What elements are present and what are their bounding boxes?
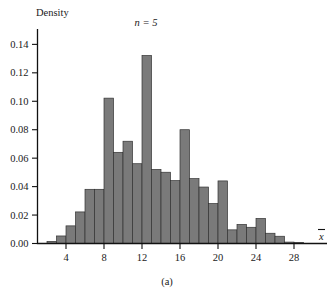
- histogram-bar: [95, 189, 105, 243]
- y-tick-label: 0.00: [10, 238, 28, 249]
- histogram-bar: [256, 218, 266, 243]
- histogram-bar: [161, 172, 171, 243]
- x-axis-ticks: 481216202428: [63, 244, 299, 263]
- x-tick-label: 28: [289, 252, 300, 263]
- histogram-bar: [228, 230, 238, 244]
- histogram-bar: [180, 130, 190, 244]
- x-tick-label: 16: [175, 252, 186, 263]
- histogram-bar: [142, 55, 152, 243]
- histogram-bar: [114, 152, 124, 243]
- y-tick-label: 0.02: [10, 210, 28, 221]
- histogram-bar: [275, 236, 285, 243]
- x-tick-label: 20: [213, 252, 224, 263]
- sample-size-annotation: n = 5: [135, 17, 158, 28]
- x-tick-label: 8: [101, 252, 106, 263]
- y-tick-label: 0.12: [10, 67, 28, 78]
- y-tick-label: 0.10: [10, 96, 28, 107]
- histogram-bar: [76, 212, 86, 244]
- histogram-bar: [85, 189, 95, 243]
- x-tick-label: 12: [137, 252, 148, 263]
- x-axis-label: x: [318, 230, 325, 243]
- figure-caption: (a): [161, 276, 173, 288]
- x-tick-label: 24: [251, 252, 262, 263]
- histogram-bar: [66, 226, 76, 244]
- histogram-bar: [237, 224, 247, 243]
- figure-histogram-sample-means: 0.000.020.040.060.080.100.120.14 4812162…: [0, 0, 334, 292]
- y-axis-label: Density: [36, 7, 69, 18]
- histogram-bar: [209, 204, 219, 244]
- histogram-bar: [247, 227, 257, 243]
- histogram-bar: [152, 169, 162, 243]
- histogram-bar: [123, 141, 133, 243]
- histogram-bar: [218, 181, 228, 244]
- x-tick-label: 4: [63, 252, 69, 263]
- bar-series: [47, 55, 304, 243]
- histogram-bar: [57, 236, 67, 244]
- y-tick-label: 0.04: [10, 181, 29, 192]
- histogram-bar: [133, 164, 143, 244]
- y-tick-label: 0.06: [10, 153, 28, 164]
- y-axis-ticks: 0.000.020.040.060.080.100.120.14: [10, 39, 37, 249]
- histogram-bar: [199, 187, 209, 243]
- histogram-chart: 0.000.020.040.060.080.100.120.14 4812162…: [0, 0, 334, 292]
- histogram-bar: [190, 179, 200, 244]
- y-tick-label: 0.08: [10, 124, 28, 135]
- histogram-bar: [266, 233, 276, 243]
- svg-text:x: x: [318, 231, 324, 242]
- histogram-bar: [104, 98, 114, 243]
- histogram-bar: [171, 181, 181, 244]
- y-tick-label: 0.14: [10, 39, 29, 50]
